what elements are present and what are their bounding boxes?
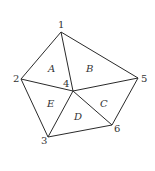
vertex-label-1: 1 bbox=[58, 19, 64, 30]
vertex-label-3: 3 bbox=[41, 135, 47, 146]
edge-1-5 bbox=[61, 32, 138, 78]
vertex-label-5: 5 bbox=[141, 73, 147, 84]
vertex-labels: 1 2 3 4 5 6 bbox=[13, 19, 147, 146]
edge-4-5 bbox=[73, 78, 138, 91]
vertex-label-6: 6 bbox=[114, 123, 120, 134]
region-label-a: A bbox=[47, 63, 55, 74]
edge-2-3 bbox=[21, 79, 48, 137]
edge-6-5 bbox=[112, 78, 138, 125]
vertex-label-2: 2 bbox=[13, 73, 19, 84]
region-label-e: E bbox=[46, 98, 55, 109]
triangulated-pentagon-diagram: 1 2 3 4 5 6 A B C D E bbox=[0, 0, 155, 171]
edge-3-6 bbox=[48, 125, 112, 137]
region-label-b: B bbox=[85, 63, 93, 74]
vertex-label-4: 4 bbox=[63, 78, 69, 89]
region-label-d: D bbox=[73, 111, 82, 122]
region-label-c: C bbox=[100, 98, 108, 109]
